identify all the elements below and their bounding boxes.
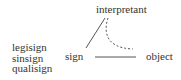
sign-types-list: legisign sinsign qualisign xyxy=(12,42,52,74)
sign-type-legisign: legisign xyxy=(12,42,52,53)
edge-sign-interpretant xyxy=(86,18,105,48)
sign-label: sign xyxy=(65,51,83,62)
interpretant-label: interpretant xyxy=(96,4,147,15)
edge-interpretant-object-dashed xyxy=(106,18,133,49)
object-label: object xyxy=(146,51,173,62)
sign-type-qualisign: qualisign xyxy=(12,63,52,74)
